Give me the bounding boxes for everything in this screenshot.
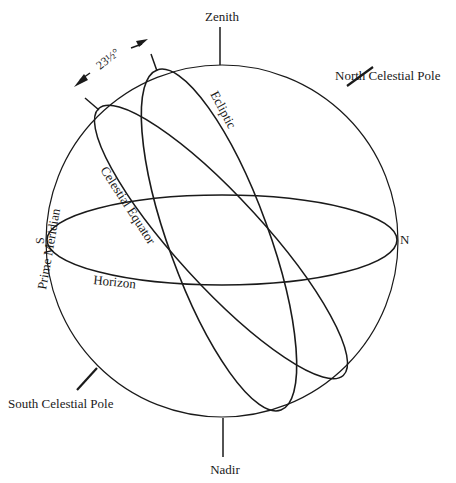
ecliptic-label: Ecliptic (207, 88, 239, 131)
prime-meridian-label: Prime Meridian (34, 207, 63, 291)
north-point-label: N (400, 232, 410, 247)
south-celestial-pole-tick (77, 368, 97, 390)
nadir-label: Nadir (210, 462, 240, 477)
north-celestial-pole-label: North Celestial Pole (335, 68, 441, 83)
zenith-label: Zenith (205, 9, 239, 24)
celestial-sphere-diagram: Zenith Nadir North Celestial Pole South … (0, 0, 456, 483)
south-celestial-pole-label: South Celestial Pole (8, 396, 114, 411)
equator-pole-tick (85, 98, 99, 110)
obliquity-angle-label: 23½° (93, 45, 122, 72)
obliquity-arrow-left (74, 73, 90, 87)
horizon-label: Horizon (93, 272, 137, 291)
obliquity-arrow-right (131, 39, 148, 48)
ecliptic-pole-tick (151, 54, 157, 71)
horizon-circle (47, 195, 397, 285)
